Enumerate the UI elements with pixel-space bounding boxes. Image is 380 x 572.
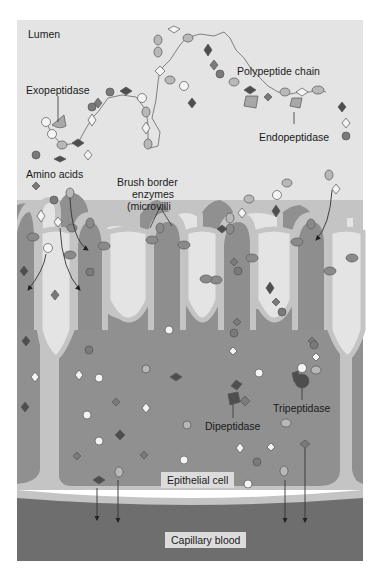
protein-digestion-diagram: Lumen Exopeptidase Polypeptide chain End… <box>0 0 380 572</box>
capillary-blood-region <box>17 498 363 561</box>
capillary-blood-label: Capillary blood <box>165 532 246 548</box>
endopeptidase-enzyme-2 <box>290 98 302 108</box>
dipeptidase-label: Dipeptidase <box>205 420 260 432</box>
polypeptide-chain-label: Polypeptide chain <box>237 65 320 77</box>
endopeptidase-enzyme-1 <box>244 96 258 108</box>
tripeptidase-label: Tripeptidase <box>273 402 330 414</box>
brush-border-label-line2: enzymes <box>132 188 174 200</box>
amino-acids-label: Amino acids <box>26 168 83 180</box>
lumen-label: Lumen <box>28 28 60 40</box>
brush-border-label-line3: (microvilli <box>127 200 171 212</box>
endopeptidase-label: Endopeptidase <box>259 131 329 143</box>
epithelial-cell-label: Epithelial cell <box>161 472 234 488</box>
exopeptidase-label: Exopeptidase <box>26 84 90 96</box>
brush-border-label-line1: Brush border <box>117 176 178 188</box>
